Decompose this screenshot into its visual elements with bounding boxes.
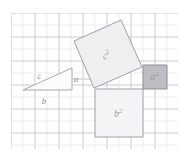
pythagorean-theorem-figure: c a b c2b2a2 [0, 0, 189, 166]
leg-label-a: a [74, 74, 79, 84]
square-on-leg-a [143, 65, 167, 89]
pythagoras-diagram-canvas: c a b c2b2a2 [0, 0, 189, 166]
leg-label-b: b [42, 96, 47, 106]
